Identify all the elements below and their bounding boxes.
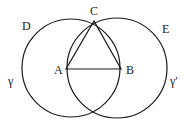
label-gamma-prime: γ′: [169, 74, 178, 88]
construction-diagram: C D E A B γ γ′: [0, 0, 191, 133]
triangle-abc: [66, 21, 121, 69]
circle-gamma: [22, 19, 120, 117]
label-c: C: [90, 4, 98, 18]
circle-gamma-prime: [67, 18, 167, 118]
label-e: E: [162, 22, 169, 36]
label-b: B: [126, 63, 134, 77]
label-gamma: γ: [7, 74, 14, 88]
label-a: A: [54, 63, 63, 77]
label-d: D: [22, 19, 31, 33]
